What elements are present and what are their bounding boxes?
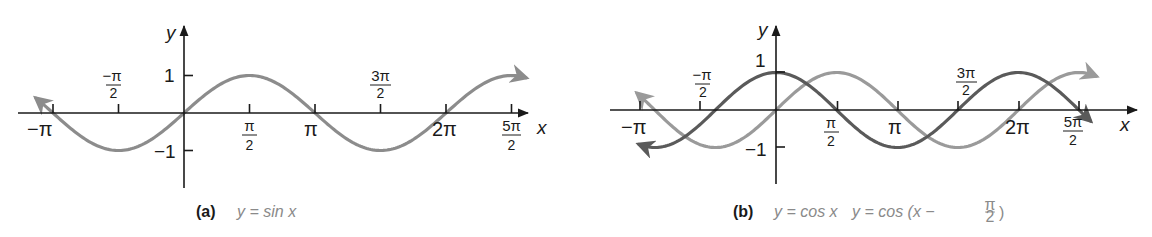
tick-label-3pi-over-2: 3π 2 bbox=[370, 67, 391, 101]
svg-text:2: 2 bbox=[508, 137, 516, 153]
tick-label-2pi: 2π bbox=[432, 118, 457, 140]
tick-label-neg-pi: −π bbox=[621, 116, 646, 138]
x-axis-label: x bbox=[536, 117, 548, 138]
x-ticks bbox=[640, 101, 1079, 110]
caption-b-frac-den: 2 bbox=[986, 208, 995, 225]
y-tick-label-neg-1: −1 bbox=[154, 141, 176, 162]
caption-b-equation-2: y = cos (x − bbox=[851, 203, 935, 220]
y-tick-label-1: 1 bbox=[755, 50, 766, 71]
caption-b-equation-1: y = cos x bbox=[773, 203, 839, 220]
y-tick-label-1: 1 bbox=[164, 65, 175, 86]
panel-b: y x −π π 2 π 2π 5π 2 −π 2 3π 2 1 −1 bbox=[610, 19, 1137, 225]
caption-b-label: (b) bbox=[733, 203, 753, 220]
x-ticks bbox=[53, 104, 512, 113]
svg-text:5π: 5π bbox=[1064, 113, 1083, 130]
caption-b-close-paren: ) bbox=[999, 204, 1004, 221]
svg-text:π: π bbox=[826, 114, 836, 131]
svg-text:π: π bbox=[244, 117, 254, 134]
tick-label-pi-over-2: π 2 bbox=[242, 117, 257, 153]
tick-label-5pi-over-2: 5π 2 bbox=[1063, 113, 1083, 148]
tick-label-pi: π bbox=[304, 118, 318, 140]
tick-label-pi: π bbox=[888, 116, 902, 138]
svg-text:2: 2 bbox=[962, 82, 970, 98]
x-axis-label: x bbox=[1119, 114, 1131, 135]
figure-canvas: y x −π π 2 π 2π 5π 2 −π 2 3π 2 1 −1 bbox=[0, 0, 1152, 237]
tick-label-2pi: 2π bbox=[1005, 116, 1030, 138]
svg-text:2: 2 bbox=[246, 137, 254, 153]
svg-text:2: 2 bbox=[110, 85, 118, 101]
svg-text:3π: 3π bbox=[371, 67, 390, 84]
svg-text:2: 2 bbox=[827, 133, 835, 149]
y-axis-label: y bbox=[756, 19, 769, 40]
caption-a-label: (a) bbox=[196, 203, 216, 220]
y-tick-label-neg-1: −1 bbox=[745, 139, 767, 160]
caption-b: (b) y = cos x y = cos (x − π 2 ) bbox=[733, 196, 1004, 225]
tick-label-neg-pi: −π bbox=[27, 118, 52, 140]
caption-a-equation: y = sin x bbox=[236, 203, 297, 220]
tick-label-neg-pi-over-2: −π 2 bbox=[692, 66, 711, 100]
svg-text:2: 2 bbox=[699, 84, 707, 100]
svg-text:5π: 5π bbox=[502, 117, 521, 134]
y-axis-label: y bbox=[164, 22, 177, 43]
tick-label-neg-pi-over-2: −π 2 bbox=[102, 67, 121, 101]
svg-text:2: 2 bbox=[1069, 132, 1077, 148]
tick-label-5pi-over-2: 5π 2 bbox=[502, 117, 521, 153]
svg-text:−π: −π bbox=[102, 67, 121, 84]
svg-text:2: 2 bbox=[377, 85, 385, 101]
tick-label-pi-over-2: π 2 bbox=[824, 114, 839, 149]
svg-text:3π: 3π bbox=[957, 64, 976, 81]
caption-a: (a) y = sin x bbox=[196, 203, 297, 220]
svg-text:−π: −π bbox=[692, 66, 711, 83]
panel-a: y x −π π 2 π 2π 5π 2 −π 2 3π 2 1 −1 bbox=[18, 22, 548, 220]
